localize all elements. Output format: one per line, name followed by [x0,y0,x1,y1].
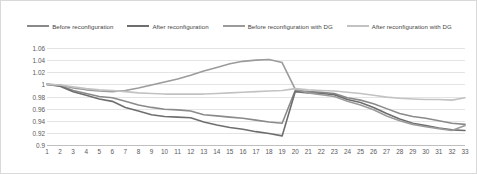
legend-item[interactable]: Before reconfiguration with DG [223,23,333,30]
x-axis-tick-label: 12 [187,148,194,155]
x-axis-tick-label: 32 [448,148,455,155]
x-axis-tick-label: 3 [71,148,75,155]
x-axis-line [47,145,465,146]
x-axis-tick-label: 21 [305,148,312,155]
legend-item[interactable]: Before reconfiguration [27,23,113,30]
x-axis-tick-label: 14 [213,148,220,155]
x-axis: 1234567891011121314151617181920212223242… [47,148,465,160]
legend-item[interactable]: After reconfiguration with DG [347,23,452,30]
x-axis-tick-label: 31 [435,148,442,155]
x-axis-tick-label: 30 [422,148,429,155]
x-axis-tick-label: 19 [279,148,286,155]
x-axis-tick-label: 33 [461,148,468,155]
y-axis: 1.061.041.0210.980.960.940.920.9 [15,48,45,145]
y-axis-tick-label: 1.02 [33,69,45,76]
x-axis-tick-label: 5 [97,148,101,155]
y-axis-tick-label: 0.94 [33,117,45,124]
plot-area [47,48,465,145]
x-axis-tick-label: 8 [137,148,141,155]
x-axis-tick-label: 10 [161,148,168,155]
y-axis-tick-label: 0.92 [33,129,45,136]
x-axis-tick-label: 1 [45,148,49,155]
x-axis-tick-label: 13 [200,148,207,155]
series-lines [47,48,465,145]
legend-item-label: Before reconfiguration [52,23,113,30]
y-axis-tick-label: 1 [41,81,45,88]
x-axis-tick-label: 24 [344,148,351,155]
x-axis-tick-label: 2 [58,148,62,155]
legend-line-icon [347,25,369,27]
legend-line-icon [127,25,149,27]
x-axis-tick-label: 28 [396,148,403,155]
y-axis-tick-label: 1.04 [33,57,45,64]
legend-item-label: Before reconfiguration with DG [248,23,333,30]
x-axis-tick-label: 9 [150,148,154,155]
x-axis-tick-label: 7 [124,148,128,155]
x-axis-tick-label: 27 [383,148,390,155]
x-axis-tick-label: 17 [252,148,259,155]
x-axis-tick-label: 18 [266,148,273,155]
x-axis-tick-label: 23 [331,148,338,155]
x-axis-tick-label: 29 [409,148,416,155]
x-axis-tick-label: 11 [174,148,181,155]
legend-item-label: After reconfiguration with DG [372,23,452,30]
x-axis-tick-label: 15 [226,148,233,155]
x-axis-tick-label: 4 [84,148,88,155]
y-axis-tick-label: 0.96 [33,105,45,112]
legend-line-icon [27,25,49,27]
x-axis-tick-label: 25 [357,148,364,155]
x-axis-tick-label: 6 [111,148,115,155]
y-axis-tick-label: 0.9 [36,142,45,149]
legend-item[interactable]: After reconfiguration [127,23,208,30]
x-axis-tick-label: 26 [370,148,377,155]
y-axis-tick-label: 1.06 [33,45,45,52]
chart-legend: Before reconfigurationAfter reconfigurat… [1,17,477,35]
x-axis-tick-label: 22 [318,148,325,155]
line-chart-card: Before reconfigurationAfter reconfigurat… [0,0,477,174]
y-axis-tick-label: 0.98 [33,93,45,100]
legend-item-label: After reconfiguration [152,23,208,30]
x-axis-tick-label: 16 [239,148,246,155]
x-axis-tick-label: 20 [292,148,299,155]
legend-line-icon [223,25,245,27]
